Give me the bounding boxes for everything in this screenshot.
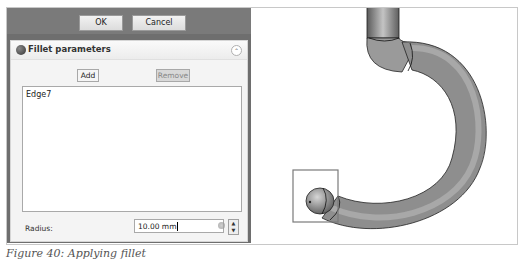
pipe-model xyxy=(252,8,515,243)
remove-button[interactable]: Remove xyxy=(156,69,190,82)
radius-input[interactable]: 10.00 mm xyxy=(134,219,224,233)
add-button[interactable]: Add xyxy=(77,69,99,82)
spin-up-icon[interactable]: ▲ xyxy=(229,220,238,227)
expression-icon[interactable] xyxy=(218,222,225,229)
radius-label: Radius: xyxy=(25,224,53,233)
double-chevron-up-icon[interactable]: ⌃ xyxy=(231,45,242,56)
ok-button[interactable]: OK xyxy=(79,15,123,31)
radius-spinner[interactable]: ▲ ▼ xyxy=(228,219,239,235)
figure-caption: Figure 40: Applying fillet xyxy=(6,247,146,260)
3d-viewport[interactable] xyxy=(252,8,515,243)
text-caret xyxy=(177,222,178,231)
fillet-task-box: Fillet parameters ⌃ Add Remove Edge7 Rad… xyxy=(10,40,248,242)
cancel-button[interactable]: Cancel xyxy=(132,15,186,31)
edge-list[interactable]: Edge7 xyxy=(22,86,242,212)
task-title: Fillet parameters xyxy=(28,44,111,54)
dialog-button-bar: OK Cancel xyxy=(7,8,251,34)
combo-view-panel: OK Cancel Fillet parameters ⌃ Add Remove… xyxy=(7,8,251,243)
task-header: Fillet parameters ⌃ xyxy=(11,41,247,60)
radius-value: 10.00 mm xyxy=(138,222,176,231)
list-item[interactable]: Edge7 xyxy=(26,90,51,99)
spin-down-icon[interactable]: ▼ xyxy=(229,227,238,234)
fillet-gear-icon xyxy=(16,45,26,55)
